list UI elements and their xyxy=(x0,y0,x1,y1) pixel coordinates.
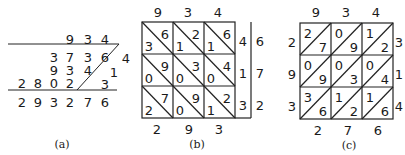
bottom-digit: 2 xyxy=(151,123,163,136)
result-digit: 2 xyxy=(64,96,76,109)
cell-digit: 2 xyxy=(379,41,391,54)
multiplicand-digit: 3 xyxy=(82,33,94,46)
cell-digit: 0 xyxy=(364,59,376,72)
right-digit: 3 xyxy=(393,36,405,49)
right-inner-digit: 1 xyxy=(237,67,249,80)
top-digit: 4 xyxy=(370,6,382,19)
cell-digit: 1 xyxy=(333,91,345,104)
right-inner-digit: 4 xyxy=(237,35,249,48)
result-digit: 2 xyxy=(16,96,28,109)
cell-digit: 9 xyxy=(190,92,202,105)
cell-digit: 1 xyxy=(205,104,217,117)
result-digit: 7 xyxy=(82,96,94,109)
bottom-digit: 3 xyxy=(213,123,225,136)
cell-digit: 6 xyxy=(159,28,171,41)
cell-digit: 7 xyxy=(159,92,171,105)
cell-digit: 1 xyxy=(205,40,217,53)
bottom-digit: 9 xyxy=(183,123,195,136)
partial-digit: 6 xyxy=(99,51,111,64)
partial-digit: 4 xyxy=(82,64,94,77)
result-digit: 9 xyxy=(32,96,44,109)
partial-digit: 0 xyxy=(48,77,60,90)
multiplier-digit: 3 xyxy=(99,78,111,91)
top-digit: 9 xyxy=(310,6,322,19)
right-digit: 1 xyxy=(393,68,405,81)
partial-digit: 8 xyxy=(32,77,44,90)
caption: (a) xyxy=(47,138,77,151)
multiplicand-digit: 9 xyxy=(64,33,76,46)
cell-digit: 2 xyxy=(221,92,233,105)
cell-digit: 6 xyxy=(317,105,329,118)
top-digit: 3 xyxy=(340,6,352,19)
bottom-digit: 6 xyxy=(372,124,384,137)
result-digit: 3 xyxy=(48,96,60,109)
cell-digit: 0 xyxy=(333,59,345,72)
cell-digit: 0 xyxy=(174,104,186,117)
cell-digit: 3 xyxy=(302,91,314,104)
right-digit: 4 xyxy=(393,100,405,113)
cell-digit: 4 xyxy=(379,73,391,86)
cell-digit: 0 xyxy=(174,72,186,85)
cell-digit: 3 xyxy=(348,73,360,86)
cell-digit: 2 xyxy=(302,27,314,40)
right-outer-digit: 2 xyxy=(254,99,266,112)
result-digit: 6 xyxy=(99,96,111,109)
cell-digit: 6 xyxy=(221,28,233,41)
left-digit: 9 xyxy=(286,68,298,81)
cell-digit: 2 xyxy=(190,28,202,41)
caption: (c) xyxy=(334,139,364,152)
cell-digit: 9 xyxy=(348,41,360,54)
cell-digit: 1 xyxy=(174,40,186,53)
cell-digit: 4 xyxy=(221,60,233,73)
bottom-digit: 2 xyxy=(312,124,324,137)
cell-digit: 9 xyxy=(159,60,171,73)
right-inner-digit: 3 xyxy=(237,99,249,112)
cell-digit: 1 xyxy=(364,27,376,40)
cell-digit: 2 xyxy=(348,105,360,118)
cell-digit: 3 xyxy=(190,60,202,73)
cell-digit: 0 xyxy=(333,27,345,40)
partial-digit: 2 xyxy=(16,77,28,90)
top-digit: 3 xyxy=(182,6,194,19)
cell-digit: 3 xyxy=(143,40,155,53)
partial-digit: 2 xyxy=(64,77,76,90)
cell-digit: 0 xyxy=(143,72,155,85)
bottom-digit: 7 xyxy=(342,124,354,137)
top-digit: 9 xyxy=(152,6,164,19)
cell-digit: 2 xyxy=(143,104,155,117)
top-digit: 4 xyxy=(212,6,224,19)
cell-digit: 0 xyxy=(205,72,217,85)
multiplicand-digit: 4 xyxy=(99,33,111,46)
caption: (b) xyxy=(182,138,212,151)
multiplier-digit: 4 xyxy=(120,52,132,65)
right-outer-digit: 6 xyxy=(254,35,266,48)
cell-digit: 0 xyxy=(302,59,314,72)
cell-digit: 9 xyxy=(317,73,329,86)
right-outer-digit: 7 xyxy=(254,67,266,80)
cell-digit: 1 xyxy=(364,91,376,104)
left-digit: 2 xyxy=(286,36,298,49)
cell-digit: 6 xyxy=(379,105,391,118)
left-digit: 3 xyxy=(286,100,298,113)
cell-digit: 7 xyxy=(317,41,329,54)
